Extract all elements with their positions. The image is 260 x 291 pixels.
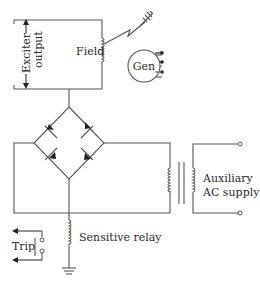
transformer: Auxiliary AC supply <box>168 142 260 215</box>
relay-coil-icon <box>69 220 71 244</box>
circuit-diagram: Exciter output Field Gen <box>0 0 260 291</box>
terminal-icon <box>160 51 164 55</box>
relay-label: Sensitive relay <box>79 231 162 244</box>
terminal-icon <box>238 142 242 146</box>
earth-fault-path <box>104 11 153 44</box>
secondary-coil-icon <box>193 168 195 192</box>
field-winding: Field <box>76 20 104 89</box>
diode-icon <box>81 148 93 160</box>
trip-label: Trip <box>12 240 35 253</box>
contact-icon <box>40 238 44 242</box>
frame-ground-icon <box>140 11 153 26</box>
contact-icon <box>40 249 44 253</box>
trip-contacts: Trip <box>12 231 44 260</box>
terminal-icon <box>238 211 242 215</box>
generator-label: Gen <box>133 60 155 73</box>
field-label: Field <box>76 45 104 58</box>
terminal-icon <box>160 60 164 64</box>
auxiliary-label-line1: Auxiliary <box>202 172 254 185</box>
exciter-label-line2: output <box>32 31 45 68</box>
sensitive-relay: Sensitive relay <box>62 213 162 274</box>
loop-wiring <box>14 143 170 213</box>
auxiliary-label-line2: AC supply <box>202 186 260 199</box>
bridge-rectifier <box>34 107 104 179</box>
primary-coil-icon <box>168 168 170 192</box>
ground-icon <box>62 268 76 274</box>
generator: Gen <box>128 50 164 82</box>
diode-icon <box>45 148 57 160</box>
